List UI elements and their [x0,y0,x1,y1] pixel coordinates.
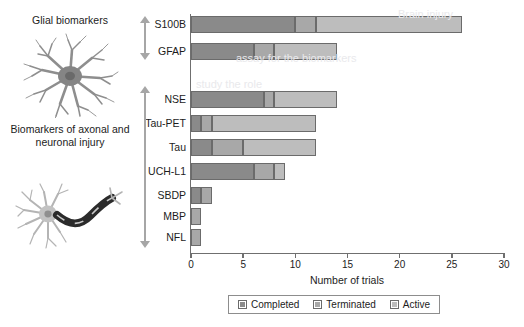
x-axis-tick [190,253,191,258]
bar-segment-terminated [201,187,211,204]
bar-segment-active [274,43,337,60]
x-axis-tick [347,253,348,258]
bar-segment-terminated [254,43,275,60]
legend-item-terminated: Terminated [313,299,375,310]
arrow-shaft [144,92,146,242]
bar-segment-completed [191,115,201,132]
bar-s100b [191,16,462,33]
x-axis-tick-label: 0 [188,259,194,270]
legend-item-active: Active [390,299,430,310]
bar-segment-active [316,16,462,33]
legend-swatch-terminated-icon [313,300,322,309]
group-range-arrow-icon-1 [139,16,151,60]
bar-segment-completed [191,139,212,156]
bar-segment-active [274,163,284,180]
x-axis-tick [451,253,452,258]
bar-tau [191,139,316,156]
bar-segment-active [243,139,316,156]
bar-uch-l1 [191,163,285,180]
legend-label-terminated: Terminated [326,299,375,310]
arrow-shaft [144,22,146,54]
x-axis-tick [295,253,296,258]
bar-segment-terminated [264,91,274,108]
bar-segment-completed [191,163,254,180]
x-axis-tick-label: 15 [342,259,353,270]
arrow-tip-down [140,241,150,248]
stacked-bar-chart: 051015202530S100BGFAPNSETau-PETTauUCH-L1… [0,0,524,327]
x-axis-tick [242,253,243,258]
bar-segment-terminated [254,163,275,180]
chart-legend: Completed Terminated Active [228,295,440,314]
figure: Glial biomarkers [0,0,524,327]
bar-segment-terminated [191,208,201,225]
bar-sbdp [191,187,212,204]
x-axis-tick [503,253,504,258]
bar-gfap [191,43,337,60]
bar-nse [191,91,337,108]
arrow-tip-down [140,53,150,60]
bar-nfl [191,229,201,246]
legend-label-completed: Completed [251,299,299,310]
bar-segment-completed [191,187,201,204]
bar-segment-active [212,115,316,132]
x-axis-tick-label: 30 [498,259,509,270]
bar-mbp [191,208,201,225]
bar-segment-completed [191,91,264,108]
bar-segment-terminated [191,229,201,246]
bar-tau-pet [191,115,316,132]
group-range-arrow-icon-2 [139,86,151,248]
bar-segment-completed [191,16,295,33]
x-axis-tick [399,253,400,258]
x-axis-tick-label: 10 [290,259,301,270]
bar-segment-terminated [295,16,316,33]
legend-swatch-active-icon [390,300,399,309]
bar-segment-terminated [201,115,211,132]
x-axis-tick-label: 5 [240,259,246,270]
bar-segment-terminated [212,139,243,156]
bar-segment-active [274,91,337,108]
x-axis-tick-label: 25 [446,259,457,270]
arrow-tip-up [140,16,150,23]
x-axis-title: Number of trials [190,274,504,286]
bar-segment-completed [191,43,254,60]
arrow-tip-up [140,86,150,93]
legend-swatch-completed-icon [238,300,247,309]
x-axis-tick-label: 20 [394,259,405,270]
legend-item-completed: Completed [238,299,299,310]
legend-label-active: Active [403,299,430,310]
